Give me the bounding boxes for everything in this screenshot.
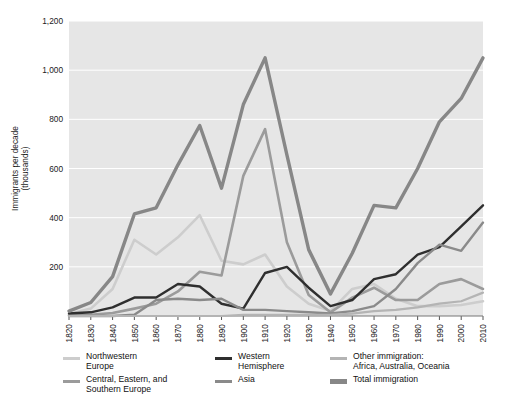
x-tick-label: 1980 (413, 324, 423, 343)
legend-item-other-immigration[interactable]: Other immigration: Africa, Australia, Oc… (330, 352, 450, 371)
x-tick-label: 1920 (282, 324, 292, 343)
y-tick-label: 1,200 (42, 16, 63, 26)
legend-label-total-immigration: Total immigration (353, 375, 418, 385)
x-tick-label: 1820 (64, 324, 74, 343)
x-tick-label: 1840 (108, 324, 118, 343)
legend-swatch-other-immigration (330, 357, 347, 360)
legend-item-asia[interactable]: Asia (215, 375, 284, 385)
x-tick-label: 1910 (260, 324, 270, 343)
legend-label-central-eastern-southern-europe: Central, Eastern, and Southern Europe (86, 375, 167, 394)
legend-swatch-asia (215, 380, 232, 383)
legend-swatch-total-immigration (330, 379, 347, 384)
legend-item-total-immigration[interactable]: Total immigration (330, 375, 450, 385)
y-axis-tick-labels: 2004006008001,0001,200 (42, 16, 63, 272)
x-tick-label: 1940 (326, 324, 336, 343)
legend-label-asia: Asia (238, 375, 255, 385)
y-tick-label: 1,000 (42, 65, 63, 75)
legend-item-western-hemisphere[interactable]: Western Hemisphere (215, 352, 284, 371)
y-tick-label: 800 (49, 114, 63, 124)
y-tick-label: 600 (49, 164, 63, 174)
x-tick-label: 1950 (347, 324, 357, 343)
y-axis-title-line: (thousands) (20, 146, 30, 190)
x-axis-tick-labels: 1820183018401850186018701880189019001910… (64, 324, 488, 343)
legend-swatch-northwestern-europe (63, 357, 80, 360)
x-tick-label: 2000 (456, 324, 466, 343)
legend-label-western-hemisphere: Western Hemisphere (238, 352, 284, 371)
x-tick-label: 1990 (435, 324, 445, 343)
legend-label-other-immigration: Other immigration: Africa, Australia, Oc… (353, 352, 450, 371)
chart-svg: 2004006008001,0001,200 18201830184018501… (0, 0, 505, 352)
x-tick-label: 1960 (369, 324, 379, 343)
immigration-line-chart-figure: 2004006008001,0001,200 18201830184018501… (0, 0, 505, 417)
legend-swatch-western-hemisphere (215, 357, 232, 360)
legend-swatch-central-eastern-southern-europe (63, 380, 80, 383)
x-tick-label: 1860 (151, 324, 161, 343)
x-tick-label: 1830 (86, 324, 96, 343)
x-tick-label: 1890 (217, 324, 227, 343)
x-tick-label: 1970 (391, 324, 401, 343)
legend-label-northwestern-europe: Northwestern Europe (86, 352, 137, 371)
chart-plot-container: 2004006008001,0001,200 18201830184018501… (0, 0, 505, 352)
x-tick-label: 1850 (130, 324, 140, 343)
x-tick-label: 1870 (173, 324, 183, 343)
y-tick-label: 200 (49, 262, 63, 272)
x-tick-label: 2010 (478, 324, 488, 343)
x-tick-label: 1880 (195, 324, 205, 343)
x-tick-label: 1930 (304, 324, 314, 343)
legend-column-2: Western HemisphereAsia (215, 352, 284, 389)
x-tick-label: 1900 (239, 324, 249, 343)
legend-column-3: Other immigration: Africa, Australia, Oc… (330, 352, 450, 389)
y-tick-label: 400 (49, 213, 63, 223)
y-axis-title-line: Immigrants per decade (10, 126, 20, 211)
legend-column-1: Northwestern EuropeCentral, Eastern, and… (63, 352, 167, 398)
legend-item-central-eastern-southern-europe[interactable]: Central, Eastern, and Southern Europe (63, 375, 167, 394)
y-axis-title: Immigrants per decade(thousands) (10, 126, 30, 211)
legend-item-northwestern-europe[interactable]: Northwestern Europe (63, 352, 167, 371)
chart-legend: Northwestern EuropeCentral, Eastern, and… (0, 352, 505, 417)
